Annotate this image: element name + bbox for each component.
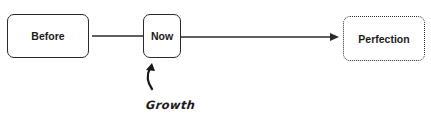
curved-arrow-up-icon <box>146 63 155 89</box>
node-perfection: Perfection <box>343 16 425 61</box>
node-now-label: Now <box>151 30 173 42</box>
node-now: Now <box>143 14 181 58</box>
node-before-label: Before <box>31 30 64 42</box>
node-perfection-label: Perfection <box>358 33 409 45</box>
node-before: Before <box>7 14 89 58</box>
arrowhead-icon <box>330 33 339 41</box>
growth-annotation-label: Growth <box>145 98 196 112</box>
